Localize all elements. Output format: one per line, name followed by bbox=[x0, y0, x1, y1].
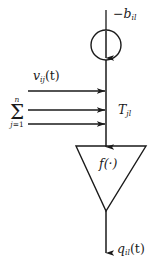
diagram-canvas bbox=[0, 0, 153, 267]
input-argument: (t) bbox=[45, 68, 60, 83]
bias-subscript: il bbox=[131, 13, 136, 22]
output-subscript: il bbox=[125, 248, 130, 257]
neuron-block-diagram: −bil vij(t) Tjl f(·) qil(t) n Σ j=1 bbox=[0, 0, 153, 267]
summation-lower-limit: j=1 bbox=[4, 121, 30, 129]
bias-label: −bil bbox=[113, 8, 136, 21]
summation-operator: n Σ j=1 bbox=[4, 96, 30, 128]
output-signal-label: qil(t) bbox=[117, 243, 145, 256]
activation-function-label: f(·) bbox=[99, 158, 117, 171]
output-argument: (t) bbox=[130, 241, 145, 256]
input-signal-label: vij(t) bbox=[33, 70, 60, 83]
weight-subscript: jl bbox=[126, 109, 131, 118]
weight-label: Tjl bbox=[118, 104, 131, 117]
input-subscript: ij bbox=[40, 75, 45, 84]
